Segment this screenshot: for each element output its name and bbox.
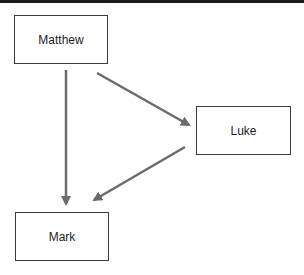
node-matthew-label: Matthew (38, 33, 83, 47)
node-matthew: Matthew (14, 15, 108, 64)
node-mark: Mark (15, 212, 109, 261)
node-luke-label: Luke (230, 124, 256, 138)
edge-luke-to-mark (94, 147, 185, 200)
node-mark-label: Mark (49, 230, 76, 244)
node-luke: Luke (196, 106, 291, 155)
edge-matthew-to-luke (97, 73, 189, 125)
